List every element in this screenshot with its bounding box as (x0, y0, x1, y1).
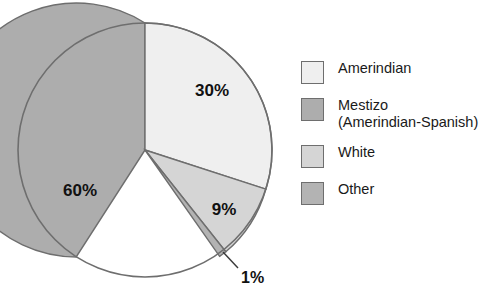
legend: Amerindian Mestizo (Amerindian-Spanish) … (301, 60, 487, 218)
legend-item-white[interactable]: White (301, 144, 487, 168)
pie-label-white: 9% (212, 200, 237, 219)
legend-label-mestizo: Mestizo (Amerindian-Spanish) (338, 97, 478, 131)
chart-page: 30% 60% 9% 1% Amerindian Mestizo (Amerin… (0, 0, 491, 290)
legend-item-mestizo[interactable]: Mestizo (Amerindian-Spanish) (301, 97, 487, 131)
pie-label-mestizo: 60% (63, 181, 97, 200)
legend-label-white: White (338, 144, 375, 161)
legend-swatch-white (301, 145, 324, 168)
callout-leader-line (223, 252, 238, 268)
legend-item-other[interactable]: Other (301, 181, 487, 205)
legend-label-mestizo-line2: (Amerindian-Spanish) (338, 114, 478, 131)
pie-label-amerindian: 30% (195, 81, 229, 100)
pie-label-other: 1% (241, 269, 264, 286)
legend-label-other: Other (338, 181, 374, 198)
pie-slice-mestizo[interactable] (0, 3, 145, 257)
legend-swatch-mestizo (301, 98, 324, 121)
legend-label-amerindian: Amerindian (338, 60, 411, 77)
pie-chart: 30% 60% 9% 1% (0, 0, 301, 290)
legend-item-amerindian[interactable]: Amerindian (301, 60, 487, 84)
legend-swatch-other (301, 182, 324, 205)
legend-label-mestizo-line1: Mestizo (338, 97, 388, 113)
legend-swatch-amerindian (301, 61, 324, 84)
